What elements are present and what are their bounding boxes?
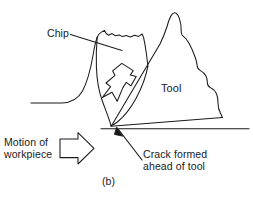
motion-label-line1: Motion of <box>4 136 52 148</box>
chip-shear-flank <box>96 37 111 125</box>
chip-outline <box>97 30 148 66</box>
figure-caption: (b) <box>102 175 115 187</box>
motion-label-line2: workpiece <box>4 148 52 160</box>
arrow-pointer-icon <box>114 127 142 160</box>
tool-label: Tool <box>161 82 182 95</box>
motion-label: Motion of workpiece <box>4 136 52 161</box>
crack-label-line1: Crack formed <box>143 148 207 160</box>
diagram-canvas <box>0 0 253 197</box>
crack-label-line2: ahead of tool <box>143 160 207 172</box>
crack-label: Crack formed ahead of tool <box>143 148 207 173</box>
tool-flank-face <box>111 118 222 127</box>
chip-label: Chip <box>47 27 69 39</box>
tool-outline <box>111 13 222 126</box>
workpiece-surface-line <box>31 37 97 103</box>
block-arrow-right-icon <box>60 133 94 164</box>
block-arrow-up-icon <box>102 63 136 101</box>
figure-container: Chip Tool Motion of workpiece Crack form… <box>0 0 253 197</box>
